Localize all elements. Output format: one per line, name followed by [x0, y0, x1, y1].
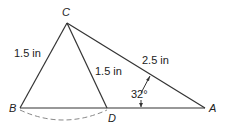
cd-length-label: 1.5 in — [95, 65, 122, 77]
arrowhead-bottom-icon — [139, 103, 143, 107]
point-d-label: D — [108, 112, 116, 124]
bc-length-label: 1.5 in — [14, 47, 41, 59]
arc-bd — [20, 110, 107, 120]
point-b-label: B — [9, 102, 16, 114]
angle-a-label: 32° — [131, 88, 148, 100]
point-c-label: C — [62, 6, 70, 18]
ca-length-label: 2.5 in — [142, 54, 169, 66]
segment-bc — [20, 23, 67, 108]
arrowhead-top-icon — [146, 76, 150, 81]
point-a-label: A — [208, 102, 216, 114]
triangle-diagram: C B D A 1.5 in 1.5 in 2.5 in 32° — [0, 0, 231, 130]
